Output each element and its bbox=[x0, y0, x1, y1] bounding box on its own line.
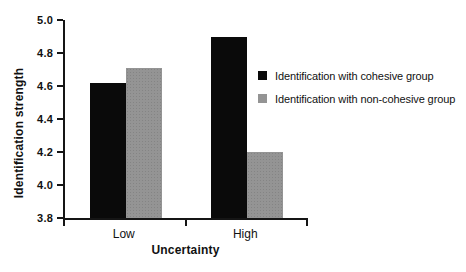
x-tick-mark bbox=[306, 220, 308, 226]
bar-chart-figure: Identification strength 5.04.84.64.44.24… bbox=[0, 0, 466, 272]
y-tick-label: 3.8 bbox=[21, 213, 53, 224]
x-tick-mark bbox=[185, 220, 187, 226]
plot-area bbox=[63, 20, 308, 220]
y-tick-label: 5.0 bbox=[21, 15, 53, 26]
legend-swatch-icon bbox=[258, 94, 267, 103]
y-tick-label: 4.8 bbox=[21, 48, 53, 59]
bar-low-series1 bbox=[90, 83, 126, 218]
x-category-label-high: High bbox=[233, 228, 258, 240]
legend-label: Identification with non-cohesive group bbox=[275, 93, 455, 105]
y-axis-title: Identification strength bbox=[12, 68, 26, 199]
bar-high-series2 bbox=[247, 152, 283, 218]
legend-item: Identification with non-cohesive group bbox=[258, 90, 455, 107]
legend: Identification with cohesive groupIdenti… bbox=[258, 67, 455, 113]
legend-label: Identification with cohesive group bbox=[275, 70, 434, 82]
bar-low-series2 bbox=[126, 68, 162, 218]
legend-swatch-icon bbox=[258, 71, 267, 80]
legend-item: Identification with cohesive group bbox=[258, 67, 455, 84]
x-axis-title: Uncertainty bbox=[63, 243, 308, 257]
x-tick-mark bbox=[63, 220, 65, 226]
x-category-label-low: Low bbox=[113, 228, 135, 240]
bar-high-series1 bbox=[211, 37, 247, 219]
